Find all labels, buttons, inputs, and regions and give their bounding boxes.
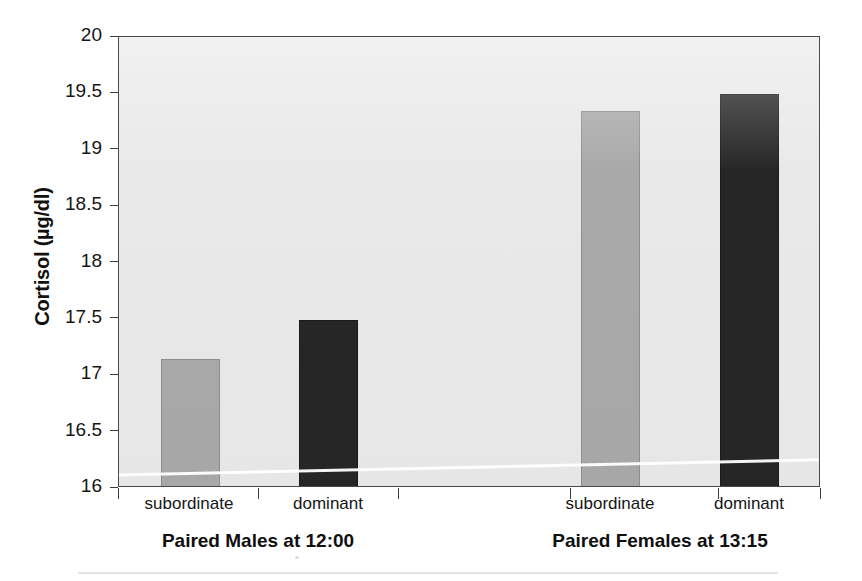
x-axis-category-label: dominant — [679, 494, 819, 514]
x-axis-group-label: Paired Females at 13:15 — [500, 530, 820, 552]
x-axis-category-label: dominant — [258, 494, 398, 514]
y-axis-tick-label: 18.5 — [40, 193, 102, 215]
y-axis-tick-label: 20 — [40, 24, 102, 46]
bar-paired-females-at-13-15-subordinate — [581, 111, 640, 486]
y-axis-tick-label: 19.5 — [40, 80, 102, 102]
x-axis-category-label: subordinate — [119, 494, 259, 514]
y-axis-tick-label: 17.5 — [40, 306, 102, 328]
y-axis-tick-label: 18 — [40, 250, 102, 272]
plot-area — [118, 36, 820, 487]
x-axis-tick — [398, 488, 399, 499]
bar-paired-males-at-12-00-dominant — [299, 320, 358, 486]
y-axis-tick — [110, 148, 118, 149]
y-axis-tick-label: 17 — [40, 362, 102, 384]
y-axis-tick-label: 16 — [40, 475, 102, 497]
bar-paired-males-at-12-00-subordinate — [161, 359, 220, 486]
x-axis-category-label: subordinate — [540, 494, 680, 514]
y-axis-tick — [110, 36, 118, 37]
y-axis-tick — [110, 374, 118, 375]
bar-paired-females-at-13-15-dominant — [720, 94, 779, 486]
y-axis-tick — [110, 487, 118, 488]
cortisol-bar-chart-figure: Cortisol (µg/dl) 2019.51918.51817.51716.… — [0, 0, 862, 581]
y-axis-tick — [110, 317, 118, 318]
y-axis-tick-label: 16.5 — [40, 419, 102, 441]
page-edge-artifact — [78, 572, 778, 574]
y-axis-tick — [110, 205, 118, 206]
y-axis-tick — [110, 261, 118, 262]
y-axis-tick-label: 19 — [40, 137, 102, 159]
scan-speck-artifact — [295, 556, 299, 559]
x-axis-tick — [820, 488, 821, 499]
y-axis-tick — [110, 92, 118, 93]
x-axis-group-label: Paired Males at 12:00 — [98, 530, 418, 552]
y-axis-tick — [110, 430, 118, 431]
